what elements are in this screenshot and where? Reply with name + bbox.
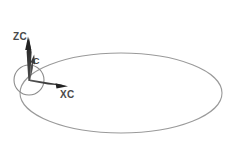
diagram-canvas: ZC C XC	[0, 0, 235, 145]
z-axis-label: ZC	[13, 31, 27, 42]
orbit-ellipse	[20, 53, 222, 133]
origin-label: C	[33, 56, 40, 66]
coordinate-frame-diagram: ZC C XC	[0, 0, 235, 145]
x-axis-label: XC	[60, 89, 75, 100]
x-axis-arrow	[30, 79, 68, 88]
